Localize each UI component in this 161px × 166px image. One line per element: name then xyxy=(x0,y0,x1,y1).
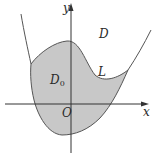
outer-curve-left xyxy=(21,14,31,64)
region-d0-label-subscript: 0 xyxy=(60,79,65,88)
region-d0-label-main: D xyxy=(50,73,60,87)
x-axis-label: x xyxy=(143,106,150,118)
region-diagram: y x O D L D0 xyxy=(0,0,161,166)
region-d0-label: D0 xyxy=(50,74,65,88)
curve-l-label: L xyxy=(98,66,106,78)
origin-label: O xyxy=(62,107,72,119)
outer-curve-right xyxy=(128,30,151,70)
diagram-canvas xyxy=(0,0,161,166)
region-d-label: D xyxy=(99,28,109,40)
y-axis-label: y xyxy=(63,2,70,14)
shaded-region-d0 xyxy=(31,41,128,135)
